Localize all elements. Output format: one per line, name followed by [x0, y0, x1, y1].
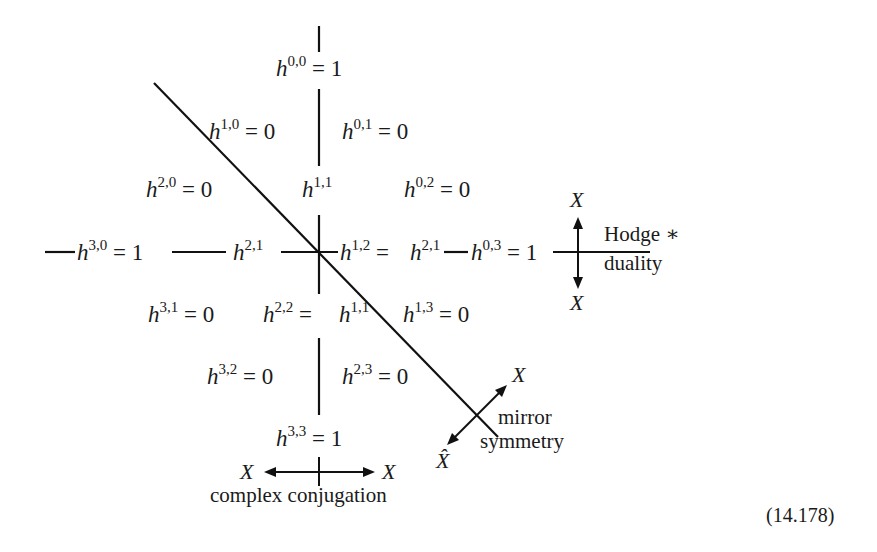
hodge-number-h30: h3,0 = 1 — [77, 237, 143, 265]
diagonal-axis — [154, 83, 498, 437]
equation-number: (14.178) — [766, 504, 834, 527]
hodge-number-h23: h2,3 = 0 — [342, 361, 408, 389]
hodge-number-h03: h0,3 = 1 — [471, 237, 537, 265]
hodge-star-label-line1: Hodge ∗ — [604, 222, 680, 246]
hodge-number-h13: h1,3 = 0 — [403, 299, 469, 327]
hodge-number-h01: h0,1 = 0 — [342, 116, 408, 144]
arrow-up-icon — [573, 217, 583, 229]
mirror-symmetry-annotation: X X̂ mirror symmetry — [435, 362, 564, 473]
hodge-number-h11: h1,1 — [302, 174, 332, 202]
conjugation-left-x: X — [239, 459, 255, 484]
hodge-number-h10: h1,0 = 0 — [209, 116, 275, 144]
arrow-down-icon — [573, 277, 583, 289]
hodge-number-h12: h1,2 = — [340, 237, 389, 265]
hodge-number-h21: h2,1 — [233, 237, 263, 265]
hodge-number-h22: h2,2 = — [263, 299, 312, 327]
hodge-number-h02: h0,2 = 0 — [404, 174, 470, 202]
hodge-star-bottom-x: X — [569, 290, 585, 315]
conjugation-right-x: X — [381, 459, 397, 484]
hodge-star-top-x: X — [569, 187, 585, 212]
hodge-number-h20: h2,0 = 0 — [146, 174, 212, 202]
hodge-diamond-diagram: h0,0 = 1h1,0 = 0h0,1 = 0h2,0 = 0h1,1h0,2… — [0, 0, 877, 552]
hodge-number-h00: h0,0 = 1 — [276, 53, 342, 81]
hodge-number-h21b: h2,1 — [410, 237, 440, 265]
mirror-label-line1: mirror — [498, 405, 552, 429]
hodge-star-label-line2: duality — [604, 251, 663, 275]
hodge-number-h11b: h1,1 — [339, 299, 369, 327]
hodge-number-h33: h3,3 = 1 — [276, 423, 342, 451]
conjugation-label: complex conjugation — [210, 483, 387, 507]
arrow-right-icon — [363, 467, 375, 477]
mirror-label-line2: symmetry — [480, 429, 564, 453]
mirror-lower-xhat: X̂ — [435, 448, 451, 473]
mirror-upper-x: X — [511, 362, 527, 387]
hodge-number-h32: h3,2 = 0 — [207, 361, 273, 389]
complex-conjugation-annotation: X X complex conjugation — [210, 457, 397, 507]
arrow-left-icon — [264, 467, 276, 477]
hodge-number-h31: h3,1 = 0 — [148, 299, 214, 327]
